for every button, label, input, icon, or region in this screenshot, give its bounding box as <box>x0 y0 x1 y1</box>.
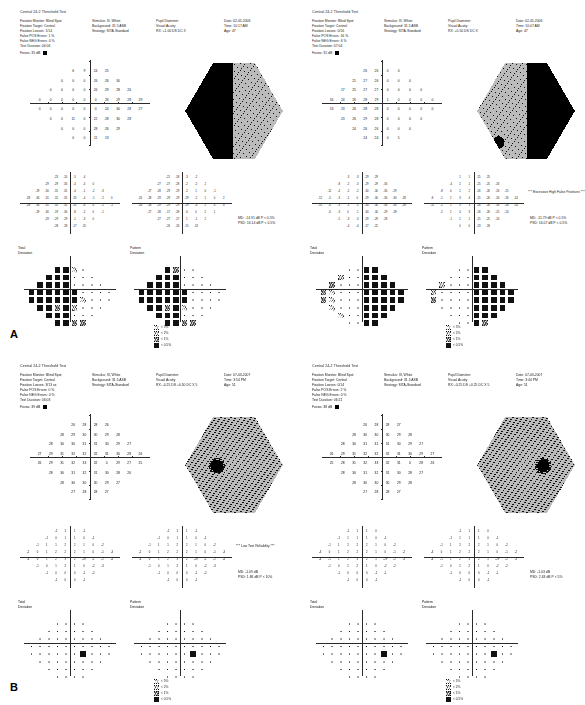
deviation-value: 1 <box>447 204 454 208</box>
deviation-value: 2 <box>71 544 78 548</box>
header-col1: Fixation Monitor: Blind SpotFixation Tar… <box>20 373 61 403</box>
deviation-value: -6 <box>326 211 333 215</box>
sensitivity-value: 30 <box>92 481 100 485</box>
deviation-value: -2 <box>382 565 389 569</box>
vertical-axis <box>382 60 383 146</box>
sensitivity-value: 31 <box>58 452 66 456</box>
deviation-symbol <box>89 304 95 322</box>
deviation-symbol <box>390 651 396 669</box>
sensitivity-value: 28 <box>350 433 358 437</box>
sensitivity-value: 0 <box>406 98 414 102</box>
axis-tick <box>354 456 355 458</box>
deviation-value: 3 <box>466 211 473 215</box>
deviation-value: -1 <box>90 558 97 562</box>
deviation-value: -2 <box>391 565 398 569</box>
deviation-value: 0 <box>53 537 60 541</box>
sensitivity-value: 0 <box>417 107 425 111</box>
deviation-value: 1 <box>192 190 199 194</box>
deviation-symbol <box>98 297 104 315</box>
deviation-value: -29 <box>80 558 87 562</box>
deviation-value: 2 <box>71 558 78 562</box>
grayscale-map <box>474 413 578 517</box>
deviation-value: 3 <box>466 558 473 562</box>
deviation-value: 2 <box>354 544 361 548</box>
printout-title: Central 24-2 Threshold Test <box>20 364 66 368</box>
deviation-value: -29 <box>155 204 162 208</box>
deviation-value: -30 <box>391 197 398 201</box>
deviation-value: 0 <box>354 579 361 583</box>
legend-row: < 0.5% <box>154 342 171 348</box>
deviation-value: -24 <box>494 218 501 222</box>
deviation-value: -2 <box>438 211 445 215</box>
sensitivity-value: 0 <box>395 107 403 111</box>
fovea-marker <box>43 405 47 409</box>
deviation-value: 1 <box>192 551 199 555</box>
deviation-value: -8 <box>71 211 78 215</box>
deviation-value: -2 <box>25 551 32 555</box>
sensitivity-value: 31 <box>69 471 77 475</box>
sensitivity-value: 30 <box>350 471 358 475</box>
deviation-value: -31 <box>71 197 78 201</box>
deviation-value: 0 <box>335 565 342 569</box>
axis-tick <box>89 145 91 146</box>
deviation-symbol <box>29 643 35 661</box>
deviation-value: -28 <box>400 197 407 201</box>
deviation-symbol <box>474 312 480 330</box>
axis-tick <box>89 485 91 486</box>
header-col3: Pupil Diameter:Visual Acuity:RX: +1.00 D… <box>156 19 186 34</box>
deviation-value: -2 <box>108 204 115 208</box>
sensitivity-value: 24 <box>92 69 100 73</box>
sensitivity-value: 33 <box>372 461 380 465</box>
deviation-value: -29 <box>363 197 370 201</box>
probability-legend: < 5%< 2%< 1%< 0.5% <box>446 678 463 702</box>
sensitivity-value: 26 <box>350 98 358 102</box>
deviation-value: 0 <box>202 544 209 548</box>
sensitivity-value: 32 <box>372 471 380 475</box>
deviation-value: -1 <box>202 558 209 562</box>
total-deviation-label: TotalDeviation <box>310 600 324 609</box>
deviation-value: -4 <box>354 225 361 229</box>
sensitivity-value: 30 <box>350 442 358 446</box>
deviation-value: -4 <box>108 558 115 562</box>
sensitivity-value: 28 <box>339 471 347 475</box>
sensitivity-value: 30 <box>372 433 380 437</box>
deviation-value: -29 <box>165 204 172 208</box>
deviation-value: -1 <box>43 537 50 541</box>
pattern-deviation-label: PatternDeviation <box>130 246 144 255</box>
deviation-value: 1 <box>354 537 361 541</box>
grayscale-map <box>182 413 286 517</box>
axis-tick <box>340 456 341 458</box>
deviation-value: -30 <box>34 197 41 201</box>
deviation-value: 0 <box>34 558 41 562</box>
deviation-value: -8 <box>335 183 342 187</box>
sensitivity-value: 0 <box>406 107 414 111</box>
sensitivity-value: 28 <box>372 490 380 494</box>
deviation-value: 3 <box>457 197 464 201</box>
legend-swatch <box>446 337 451 342</box>
sensitivity-value: 31 <box>350 452 358 456</box>
deviation-value: 1 <box>335 544 342 548</box>
global-indices: MD: -1.09 dBPSD: 1.86 dB P < 10% <box>238 570 272 580</box>
vertical-axis <box>90 414 91 500</box>
sensitivity-value: 30 <box>395 471 403 475</box>
deviation-symbol <box>190 666 196 684</box>
sensitivity-value: 29 <box>114 98 122 102</box>
deviation-value: 0 <box>466 579 473 583</box>
deviation-symbol <box>89 658 95 676</box>
sensitivity-value: 29 <box>395 481 403 485</box>
vertical-axis <box>70 610 71 676</box>
deviation-value: -29 <box>43 218 50 222</box>
deviation-value: 1 <box>475 537 482 541</box>
deviation-value: -1 <box>438 197 445 201</box>
deviation-value: 3 <box>62 558 69 562</box>
sensitivity-value: 28 <box>406 471 414 475</box>
axis-tick <box>381 415 383 416</box>
vertical-axis <box>382 414 383 500</box>
deviation-value: -25 <box>475 176 482 180</box>
deviation-value: -1 <box>382 537 389 541</box>
deviation-value: -1 <box>382 572 389 576</box>
header-col3: Pupil Diameter:Visual Acuity:RX: +0.50 D… <box>448 19 478 34</box>
deviation-value: -3 <box>80 218 87 222</box>
deviation-symbol <box>55 666 61 684</box>
vertical-axis <box>90 60 91 146</box>
